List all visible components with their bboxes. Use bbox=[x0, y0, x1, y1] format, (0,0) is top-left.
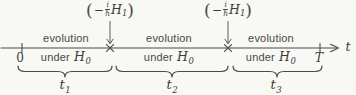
under-word: under bbox=[144, 51, 173, 64]
fraction-denominator: ℏ bbox=[223, 9, 228, 19]
underbrace-2 bbox=[116, 66, 228, 77]
pointer-arrow-2 bbox=[225, 22, 231, 44]
minus-sign: − bbox=[212, 3, 222, 17]
fraction-denominator: ℏ bbox=[105, 9, 110, 19]
underbrace-1 bbox=[18, 66, 112, 77]
underbrace-3 bbox=[233, 66, 322, 77]
fraction-i-over-hbar: i ℏ bbox=[105, 1, 110, 19]
fraction-numerator: i bbox=[106, 1, 108, 9]
duration-label-t2: t2 bbox=[166, 78, 177, 93]
segment-2-under-h0-label: under H0 bbox=[144, 51, 194, 66]
interaction-operator-label-2: ( − i ℏ H 1 ) bbox=[204, 0, 252, 20]
fraction-numerator: i bbox=[224, 1, 226, 9]
h0-symbol: H0 bbox=[177, 50, 194, 65]
segment-1-evolution-label: evolution bbox=[43, 32, 89, 45]
hamiltonian-symbol: H bbox=[229, 2, 240, 17]
axis-variable-label: t bbox=[345, 40, 350, 54]
hamiltonian-subscript: 1 bbox=[240, 8, 245, 18]
segment-3-under-h0-label: under H0 bbox=[246, 51, 296, 66]
under-word: under bbox=[246, 51, 275, 64]
h0-subscript: 0 bbox=[291, 56, 297, 66]
pointer-arrow-1 bbox=[107, 22, 113, 44]
paren-open: ( bbox=[86, 0, 93, 20]
hamiltonian-subscript: 1 bbox=[122, 8, 127, 18]
t3-subscript: 3 bbox=[276, 85, 281, 95]
h0-symbol: H0 bbox=[279, 50, 296, 65]
hamiltonian-symbol: H bbox=[111, 2, 122, 17]
axis-origin-label: 0 bbox=[16, 51, 24, 65]
h0-subscript: 0 bbox=[86, 56, 92, 66]
segment-2-evolution-label: evolution bbox=[146, 32, 192, 45]
paren-open: ( bbox=[204, 0, 211, 20]
axis-end-label: T bbox=[315, 51, 323, 65]
h0-symbol: H0 bbox=[74, 50, 91, 65]
t2-subscript: 2 bbox=[172, 85, 177, 95]
paren-close: ) bbox=[245, 0, 252, 20]
segment-1-under-h0-label: under H0 bbox=[41, 51, 91, 66]
fraction-i-over-hbar: i ℏ bbox=[223, 1, 228, 19]
duration-label-t3: t3 bbox=[270, 78, 281, 93]
paren-close: ) bbox=[127, 0, 134, 20]
h0-subscript: 0 bbox=[189, 56, 195, 66]
t1-subscript: 1 bbox=[65, 85, 70, 95]
minus-sign: − bbox=[94, 3, 104, 17]
perturbation-timeline-diagram: ( − i ℏ H 1 ) ( − i ℏ H 1 ) evolution ev… bbox=[0, 0, 356, 95]
timeline-graphics bbox=[0, 0, 356, 95]
segment-3-evolution-label: evolution bbox=[248, 32, 294, 45]
duration-label-t1: t1 bbox=[59, 78, 70, 93]
interaction-operator-label-1: ( − i ℏ H 1 ) bbox=[86, 0, 134, 20]
under-word: under bbox=[41, 51, 70, 64]
